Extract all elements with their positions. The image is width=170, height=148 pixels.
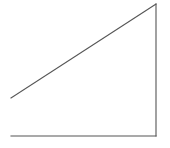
hypotenuse-line — [11, 4, 156, 98]
triangle-diagram — [0, 0, 170, 148]
